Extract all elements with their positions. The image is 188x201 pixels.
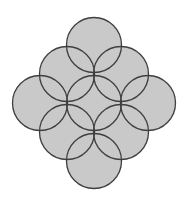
circle-fills: [13, 18, 176, 189]
overlapping-circles-diagram: [0, 0, 188, 201]
